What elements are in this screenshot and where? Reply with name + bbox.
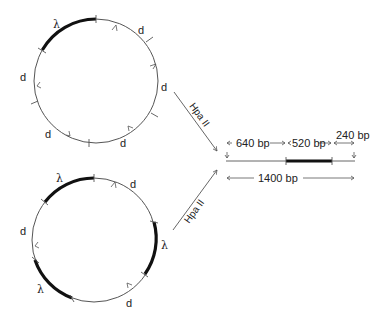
segment-middle-length: 520 bp — [292, 137, 326, 149]
segment-left-length: 640 bp — [236, 137, 270, 149]
bottom-lambda-label-3: λ — [37, 283, 44, 296]
top-circular-map: λ d d d d d — [20, 15, 167, 149]
lower-digestion-arrow: Hpa II — [173, 170, 217, 230]
top-d-label-5: d — [120, 137, 126, 149]
hpaii-digestion-diagram: λ d d d d d λ λ λ d d d — [0, 0, 388, 321]
bottom-lambda-segment-2 — [145, 222, 156, 274]
lower-enzyme-label: Hpa II — [182, 197, 207, 225]
top-direction-arrows — [37, 25, 156, 136]
bottom-lambda-label-1: λ — [56, 172, 63, 185]
top-lambda-segment — [42, 19, 96, 50]
top-lambda-label: λ — [53, 18, 60, 31]
segment-right-length: 240 bp — [336, 129, 370, 141]
bottom-d-label-2: d — [20, 225, 26, 237]
top-d-label-1: d — [138, 24, 144, 36]
total-fragment-length: 1400 bp — [258, 172, 298, 184]
bottom-d-label-3: d — [126, 297, 132, 309]
linear-end-markers — [225, 152, 356, 158]
bottom-lambda-label-2: λ — [161, 239, 168, 252]
bottom-lambda-segment-1 — [45, 178, 94, 202]
top-d-label-2: d — [161, 81, 167, 93]
upper-digestion-arrow: Hpa II — [174, 92, 217, 151]
linear-fragment-map: 640 bp 520 bp 240 bp 1400 bp — [225, 129, 370, 184]
bottom-d-label-1: d — [130, 178, 136, 190]
top-d-label-3: d — [20, 71, 26, 83]
top-d-label-4: d — [45, 128, 51, 140]
bottom-circular-map: λ λ λ d d d — [20, 172, 168, 309]
